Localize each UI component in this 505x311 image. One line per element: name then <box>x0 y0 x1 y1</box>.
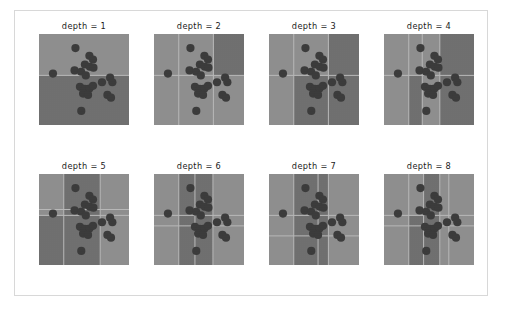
panel-depth-2: depth = 2 <box>154 21 244 125</box>
scatter-point <box>452 94 460 102</box>
scatter-point <box>434 195 442 203</box>
scatter-point <box>429 91 437 99</box>
scatter-point <box>337 94 345 102</box>
scatter-point <box>192 107 200 115</box>
panel-depth-8: depth = 8 <box>384 161 474 265</box>
scatter-point <box>434 64 442 72</box>
panel-depth-3: depth = 3 <box>269 21 359 125</box>
scatter-point <box>312 71 320 79</box>
scatter-point <box>422 107 430 115</box>
scatter-point <box>427 211 435 219</box>
panel-axes-depth-6 <box>154 174 244 265</box>
scatter-point <box>89 55 97 63</box>
panel-title-depth-5: depth = 5 <box>39 161 129 171</box>
scatter-point <box>319 55 327 63</box>
scatter-point <box>443 78 451 86</box>
decision-region <box>213 174 244 215</box>
scatter-point <box>222 234 230 242</box>
panel-depth-1: depth = 1 <box>39 21 129 125</box>
scatter-point <box>192 247 200 255</box>
panel-title-depth-1: depth = 1 <box>39 21 129 31</box>
scatter-point <box>186 184 194 192</box>
scatter-point <box>328 78 336 86</box>
scatter-point <box>223 218 231 226</box>
scatter-point <box>204 222 212 230</box>
scatter-point <box>204 82 212 90</box>
scatter-point <box>319 82 327 90</box>
scatter-point <box>197 211 205 219</box>
panel-title-depth-6: depth = 6 <box>154 161 244 171</box>
scatter-point <box>434 204 442 212</box>
scatter-point <box>301 184 309 192</box>
decision-region <box>154 34 179 125</box>
decision-region <box>409 75 423 125</box>
decision-region <box>269 174 294 265</box>
scatter-point <box>84 91 92 99</box>
panel-axes-depth-5 <box>39 174 129 265</box>
scatter-point <box>98 218 106 226</box>
scatter-point <box>49 209 57 217</box>
panel-depth-5: depth = 5 <box>39 161 129 265</box>
scatter-point <box>186 44 194 52</box>
scatter-point <box>453 78 461 86</box>
scatter-point <box>199 231 207 239</box>
panel-axes-depth-4 <box>384 34 474 125</box>
scatter-point <box>314 231 322 239</box>
panel-title-depth-4: depth = 4 <box>384 21 474 31</box>
scatter-point <box>199 91 207 99</box>
figure-frame: depth = 1depth = 2depth = 3depth = 4dept… <box>14 10 488 296</box>
scatter-point <box>89 82 97 90</box>
decision-region <box>39 215 64 265</box>
scatter-point <box>337 234 345 242</box>
scatter-point <box>82 211 90 219</box>
panel-title-depth-2: depth = 2 <box>154 21 244 31</box>
scatter-point <box>434 82 442 90</box>
scatter-point <box>416 184 424 192</box>
decision-region <box>409 215 424 265</box>
scatter-point <box>204 55 212 63</box>
scatter-point <box>84 231 92 239</box>
panel-depth-6: depth = 6 <box>154 161 244 265</box>
panel-axes-depth-3 <box>269 34 359 125</box>
scatter-point <box>107 234 115 242</box>
panel-axes-depth-7 <box>269 174 359 265</box>
scatter-point <box>338 78 346 86</box>
scatter-point <box>89 222 97 230</box>
scatter-point <box>314 91 322 99</box>
scatter-point <box>222 94 230 102</box>
scatter-point <box>89 195 97 203</box>
panel-depth-7: depth = 7 <box>269 161 359 265</box>
panel-axes-depth-1 <box>39 34 129 125</box>
scatter-point <box>416 44 424 52</box>
scatter-point <box>77 247 85 255</box>
scatter-point <box>49 69 57 77</box>
scatter-point <box>71 184 79 192</box>
decision-region <box>328 34 359 75</box>
panel-title-depth-7: depth = 7 <box>269 161 359 171</box>
scatter-point <box>307 107 315 115</box>
scatter-point <box>319 64 327 72</box>
scatter-point <box>89 64 97 72</box>
scatter-point <box>422 247 430 255</box>
decision-region <box>213 34 244 75</box>
scatter-point <box>279 69 287 77</box>
panel-depth-4: depth = 4 <box>384 21 474 125</box>
decision-region <box>384 34 409 125</box>
decision-region <box>318 174 328 265</box>
figure-canvas: depth = 1depth = 2depth = 3depth = 4dept… <box>0 0 505 311</box>
scatter-point <box>301 44 309 52</box>
scatter-point <box>108 218 116 226</box>
scatter-point <box>89 204 97 212</box>
scatter-point <box>452 234 460 242</box>
scatter-point <box>197 71 205 79</box>
scatter-point <box>107 94 115 102</box>
scatter-point <box>204 204 212 212</box>
panel-axes-depth-8 <box>384 174 474 265</box>
scatter-point <box>394 69 402 77</box>
scatter-point <box>164 209 172 217</box>
scatter-point <box>204 195 212 203</box>
panel-axes-depth-2 <box>154 34 244 125</box>
scatter-point <box>453 218 461 226</box>
scatter-point <box>108 78 116 86</box>
scatter-point <box>319 204 327 212</box>
